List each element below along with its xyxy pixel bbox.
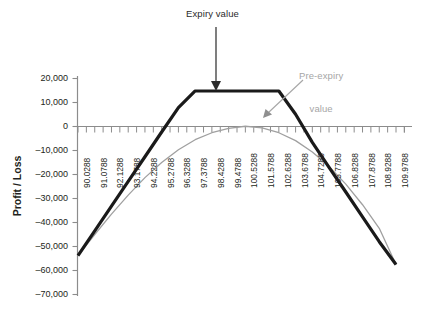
expiry-value-annotation-label: Expiry value: [186, 8, 239, 19]
x-axis-tick-label: 102.6288: [283, 153, 293, 188]
x-axis-tick-label: 92.1288: [115, 158, 125, 188]
x-axis-tick-label: 95.2788: [166, 158, 176, 188]
y-axis-tick-label: –60,000: [0, 265, 68, 275]
x-axis-tick-label: 96.3288: [182, 158, 192, 188]
chart-axes: [78, 76, 413, 296]
x-axis-tick-label: 106.8288: [350, 153, 360, 188]
x-axis-tick-label: 90.0288: [82, 158, 92, 188]
x-axis-tick-label: 104.7288: [316, 153, 326, 188]
x-axis-tick-label: 100.5288: [249, 153, 259, 188]
x-axis-tick-label: 107.8788: [367, 153, 377, 188]
y-axis-tick-label: –10,000: [0, 145, 68, 155]
x-axis-tick-label: 109.9788: [400, 153, 410, 188]
y-axis-tick-label: –20,000: [0, 169, 68, 179]
y-axis-tick-label: 20,000: [0, 73, 68, 83]
pre-expiry-annotation-line-2: value: [299, 103, 343, 114]
pre-expiry-callout-arrow: [263, 80, 303, 118]
x-axis-tick-label: 93.1788: [132, 158, 142, 188]
y-axis-tick-label: –30,000: [0, 193, 68, 203]
pre-expiry-annotation-line-1: Pre-expiry: [299, 70, 343, 81]
y-axis-tick-marks: [73, 79, 78, 295]
chart-container: Profit / Loss 20,00010,0000–10,000–20,00…: [0, 0, 422, 327]
y-axis-title: Profit / Loss: [11, 146, 23, 226]
x-axis-tick-label: 97.3788: [199, 158, 209, 188]
x-axis-tick-label: 91.0788: [99, 158, 109, 188]
pre-expiry-value-annotation-label: Pre-expiry value: [299, 48, 343, 136]
x-axis-tick-label: 94.2288: [149, 158, 159, 188]
y-axis-tick-label: –70,000: [0, 289, 68, 299]
y-axis-tick-label: 10,000: [0, 97, 68, 107]
x-axis-tick-label: 98.4288: [216, 158, 226, 188]
x-axis-tick-label: 101.5788: [266, 153, 276, 188]
x-axis-tick-label: 105.7788: [333, 153, 343, 188]
x-axis-tick-label: 108.9288: [383, 153, 393, 188]
expiry-callout-arrow: [211, 27, 221, 91]
x-axis-tick-label: 103.6788: [300, 153, 310, 188]
x-axis-tick-label: 99.4788: [233, 158, 243, 188]
y-axis-tick-label: –50,000: [0, 241, 68, 251]
y-axis-tick-label: –40,000: [0, 217, 68, 227]
y-axis-tick-label: 0: [0, 121, 68, 131]
